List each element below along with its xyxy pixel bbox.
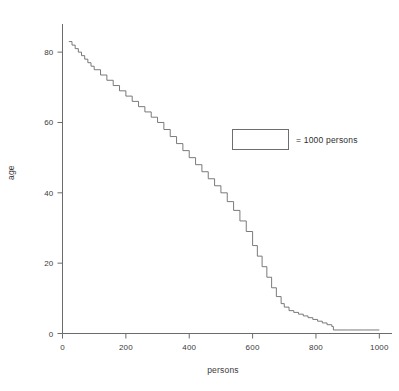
y-tick-label: 20 (0, 259, 54, 268)
age-vs-persons-chart: 02004006008001000 020406080 persons age … (0, 0, 399, 391)
x-tick-label: 0 (60, 343, 65, 352)
y-tick-label: 80 (0, 48, 54, 57)
plot-canvas (0, 0, 399, 391)
x-tick-label: 800 (309, 343, 323, 352)
age-step-line (69, 42, 379, 330)
x-axis-ticks (63, 334, 380, 339)
y-axis-ticks (58, 52, 63, 333)
x-tick-label: 1000 (370, 343, 389, 352)
y-tick-label: 60 (0, 118, 54, 127)
legend-label: = 1000 persons (296, 135, 358, 145)
x-tick-label: 600 (246, 343, 260, 352)
legend-rectangle-swatch (232, 129, 289, 150)
x-axis-title: persons (207, 365, 239, 375)
y-tick-label: 40 (0, 188, 54, 197)
y-tick-label: 0 (0, 329, 54, 338)
legend: = 1000 persons (232, 129, 358, 150)
x-tick-label: 400 (182, 343, 196, 352)
x-tick-label: 200 (119, 343, 133, 352)
y-axis-title: age (6, 165, 16, 180)
